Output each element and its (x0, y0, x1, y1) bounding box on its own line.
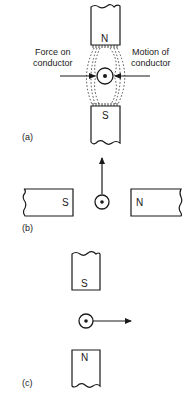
conductor-dot-out (79, 314, 93, 328)
magnet-south-bottom: S (91, 103, 120, 144)
magnet-north-right: N (131, 189, 182, 216)
motion-label-line2: conductor (131, 58, 171, 68)
pole-label-n: N (101, 33, 108, 44)
force-label-line1: Force on (35, 47, 71, 57)
panel-c: S N (c) (22, 252, 131, 388)
pole-label-n: N (136, 197, 143, 208)
pole-label-s: S (102, 110, 109, 121)
panel-label-a: (a) (22, 132, 33, 142)
pole-label-n: N (81, 352, 88, 363)
motion-label-line1: Motion of (132, 47, 170, 57)
magnet-south-left: S (23, 189, 73, 216)
magnet-south-top: S (72, 252, 100, 290)
panel-a: N (22, 5, 171, 145)
conductor-dot-out (95, 195, 109, 209)
panel-label-c: (c) (22, 378, 33, 388)
magnet-north-top: N (91, 5, 120, 48)
pole-label-s: S (62, 197, 69, 208)
conductor-dot-out (97, 68, 113, 84)
motor-principle-diagram: N (0, 0, 189, 402)
panel-b: S N (b) (22, 158, 182, 233)
pole-label-s: S (81, 278, 88, 289)
force-label-line2: conductor (33, 58, 73, 68)
magnet-north-bottom: N (72, 350, 100, 387)
panel-label-b: (b) (22, 223, 33, 233)
